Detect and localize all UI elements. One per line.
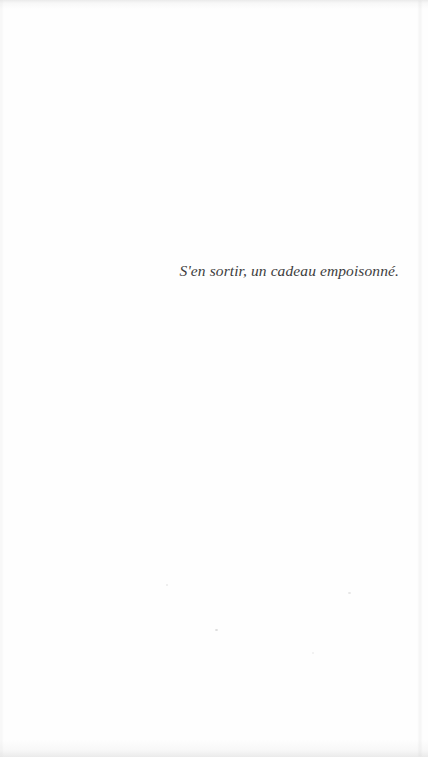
dust-speck xyxy=(348,592,351,594)
scan-artifact-top-edge xyxy=(0,0,428,9)
scan-artifact-left-page-edge xyxy=(0,0,2,757)
book-page: S'en sortir, un cadeau empoisonné. xyxy=(0,0,428,757)
scan-artifact-right-page-edge xyxy=(419,0,421,757)
dust-speck xyxy=(166,584,168,586)
dust-speck xyxy=(215,629,218,631)
scan-artifact-bottom-edge xyxy=(0,739,428,757)
epigraph-text: S'en sortir, un cadeau empoisonné. xyxy=(0,262,399,280)
dust-speck xyxy=(312,652,314,654)
